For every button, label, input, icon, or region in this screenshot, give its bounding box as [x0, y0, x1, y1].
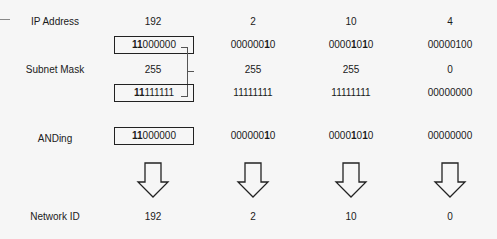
seg: 0: [368, 39, 374, 50]
seg: 0000: [329, 39, 351, 50]
seg: 000000: [143, 130, 176, 141]
down-arrow-icon: [334, 162, 368, 198]
seg: 111111: [144, 87, 174, 98]
network-octet-1: 192: [113, 211, 193, 222]
down-arrow-icon: [236, 162, 270, 198]
down-arrow-icon: [433, 162, 467, 198]
seg: 0: [270, 130, 276, 141]
ip-octet-2: 2: [213, 16, 293, 27]
seg: 000000: [231, 39, 264, 50]
label-ip-address: IP Address: [0, 16, 110, 27]
mask-octet-2: 255: [213, 64, 293, 75]
label-subnet-mask: Subnet Mask: [0, 64, 110, 75]
ip-octet-3: 10: [311, 16, 391, 27]
seg: 0000: [329, 130, 351, 141]
seg: 0: [368, 130, 374, 141]
mask-binary-3: 11111111: [311, 87, 391, 98]
seg: 0: [270, 39, 276, 50]
mask-octet-3: 255: [311, 64, 391, 75]
network-octet-3: 10: [311, 211, 391, 222]
ip-octet-1: 192: [113, 16, 193, 27]
mask-octet-1: 255: [113, 64, 193, 75]
anding-1-box: 11000000: [114, 127, 194, 145]
seg: 11: [132, 130, 143, 141]
anding-4: 00000000: [410, 130, 490, 141]
mask-binary-1-box: 11111111: [114, 84, 194, 102]
anding-2: 00000010: [213, 130, 293, 141]
anding-3: 00001010: [311, 130, 391, 141]
label-network-id: Network ID: [0, 211, 110, 222]
mask-octet-4: 0: [410, 64, 490, 75]
mask-binary-2: 11111111: [213, 87, 293, 98]
ip-binary-4: 00000100: [410, 39, 490, 50]
down-arrow-icon: [136, 162, 170, 198]
mask-binary-4: 00000000: [410, 87, 490, 98]
seg: 000000: [231, 130, 264, 141]
network-octet-4: 0: [410, 211, 490, 222]
ip-binary-1-bold: 11: [132, 39, 143, 50]
network-octet-2: 2: [213, 211, 293, 222]
ip-octet-4: 4: [410, 16, 490, 27]
ip-binary-3: 00001010: [311, 39, 391, 50]
ip-binary-2: 00000010: [213, 39, 293, 50]
seg: 11: [134, 87, 145, 98]
ip-binary-1-rest: 000000: [143, 39, 176, 50]
label-anding: ANDing: [0, 133, 110, 144]
